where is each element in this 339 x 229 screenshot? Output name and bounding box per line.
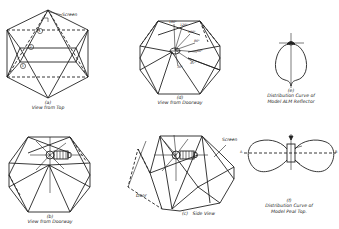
figure-b-title: View from Doorway — [20, 219, 80, 224]
figure-c-title: Side View — [193, 211, 215, 216]
figure-c-caption: (c) Side View — [182, 211, 232, 216]
figure-e-title-line2: Model ALM Reflector — [259, 99, 323, 104]
figure-a-title: View from Top — [28, 105, 68, 110]
figure-c-side-view: Screen Door (c) Side View — [110, 115, 240, 229]
figure-e-caption: (e) Distribution Curve of Model ALM Refl… — [259, 88, 323, 104]
axis-label-a: A — [240, 150, 242, 154]
figure-a-view-from-top: Screen 1 2 3 (a) View from Top — [0, 0, 110, 110]
screen-annotation: Screen — [62, 12, 77, 17]
door-annotation: Door — [136, 193, 147, 198]
figure-f-caption: (f) Distribution Curve of Model Peal Top… — [257, 198, 321, 214]
figure-e-distribution-curve-reflector: (e) Distribution Curve of Model ALM Refl… — [265, 20, 339, 115]
icosahedron-doorway-view-lamp-drawing — [0, 115, 120, 229]
ray-label-180: 180° — [169, 20, 177, 24]
figure-c-label: (c) — [182, 211, 188, 216]
marker-1: 1 — [39, 29, 41, 33]
ray-label-100: 100° — [188, 30, 196, 34]
ray-label-60: 60° — [197, 49, 203, 53]
icosahedron-doorway-view-rays-drawing — [130, 0, 230, 110]
ray-label-80: 80° — [194, 39, 200, 43]
figure-a-caption: (a) View from Top — [28, 100, 68, 111]
peal-top-distribution-curve — [240, 140, 339, 229]
ray-label-30: 30° — [177, 65, 183, 69]
marker-3: 3 — [22, 64, 24, 68]
figure-f-title-line2: Model Peal Top. — [257, 209, 321, 214]
figure-b-view-from-doorway: (b) View from Doorway — [0, 115, 120, 229]
figure-d-view-from-doorway: 180° 120° 100° 80° 60° 45° 30° (d) View … — [130, 0, 230, 110]
figure-d-title: View from Doorway — [150, 100, 210, 105]
axis-label-b: B — [335, 150, 337, 154]
ray-label-45: 45° — [190, 61, 196, 65]
figure-d-caption: (d) View from Doorway — [150, 95, 210, 106]
marker-2: 2 — [30, 45, 32, 49]
screen-annotation-side: Screen — [222, 137, 237, 142]
figure-f-distribution-curve-top: A B (f) Distribution Curve of Model Peal… — [240, 140, 339, 229]
figure-b-caption: (b) View from Doorway — [20, 214, 80, 225]
ray-label-120: 120° — [180, 23, 188, 27]
icosahedron-top-view-drawing — [0, 0, 110, 110]
